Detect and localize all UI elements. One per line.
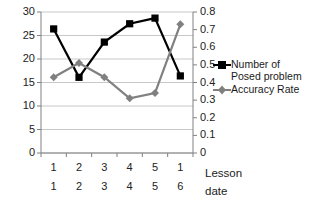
left-axis-tick-label: 25 [11,30,35,41]
chart-figure: 051015202530 00.10.20.30.40.50.60.70.8 1… [0,0,309,204]
plot-area [41,12,193,153]
x-axis-tick-label: 5 [144,181,166,192]
legend-marker-diamond-icon [213,84,231,96]
right-axis-tick-label: 0.7 [200,24,226,35]
data-point-marker [126,20,133,27]
x-axis-tick-label: 2 [68,181,90,192]
x-axis-tick-label: 4 [119,181,141,192]
series-line [54,18,181,77]
data-point-marker [75,74,82,81]
data-point-marker [50,25,57,32]
legend-marker-square-icon [213,59,231,71]
data-point-marker [101,38,108,45]
x-axis-tick-label: 1 [43,162,65,173]
x-axis-tick-label: 6 [169,181,191,192]
left-axis-tick-label: 20 [11,53,35,64]
legend-item-accuracy-rate[interactable]: Accuracy Rate [213,83,309,96]
left-axis-tick-label: 0 [11,147,35,158]
legend-label-accuracy-rate: Accuracy Rate [231,83,299,95]
right-axis-tick-label: 0.6 [200,41,226,52]
x-axis-title-line1: Lesson [205,166,242,181]
right-axis-tick-label: 0.8 [200,6,226,17]
x-axis-tick-label: 5 [144,162,166,173]
right-axis-tick-label: 0.2 [200,112,226,123]
data-point-marker [151,15,158,22]
x-axis-tick-label: 3 [93,181,115,192]
x-axis-tick-label: 3 [93,162,115,173]
plot-canvas [41,12,193,153]
data-point-marker [151,89,159,97]
x-axis-tick-label: 4 [119,162,141,173]
right-axis-tick-label: 0.1 [200,129,226,140]
data-point-marker [177,72,184,79]
legend-item-number-of-posed-problem[interactable]: Number of Posed problem [213,58,309,82]
left-axis-tick-label: 10 [11,100,35,111]
x-axis-tick-label: 1 [43,181,65,192]
left-axis-tick-label: 5 [11,124,35,135]
x-axis-tick-label: 1 [169,162,191,173]
left-axis-tick-label: 30 [11,6,35,17]
data-point-marker [176,20,184,28]
x-axis-title-line2: date [205,184,227,199]
chart-legend: Number of Posed problem Accuracy Rate [213,58,309,97]
left-axis-tick-label: 15 [11,77,35,88]
legend-label-number-of-posed-problem: Number of Posed problem [231,58,302,82]
x-axis-tick-label: 2 [68,162,90,173]
right-axis-tick-label: 0 [200,147,226,158]
